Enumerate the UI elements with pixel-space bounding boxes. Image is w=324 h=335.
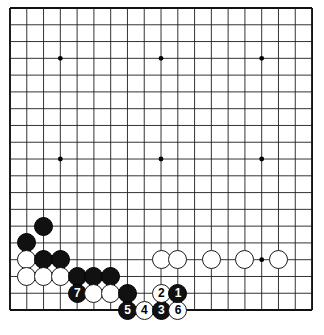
hoshi-point [259, 257, 264, 262]
move-number: 1 [169, 285, 186, 302]
move-number: 5 [119, 302, 136, 319]
numbered-stone-black: 1 [168, 284, 187, 303]
hoshi-point [58, 157, 63, 162]
numbered-stone-white: 4 [135, 301, 154, 320]
stone-white [51, 267, 70, 286]
move-number: 4 [136, 302, 153, 319]
move-number: 6 [169, 302, 186, 319]
hoshi-point [159, 56, 164, 61]
move-number: 2 [153, 285, 170, 302]
hoshi-point [159, 157, 164, 162]
move-number: 7 [69, 285, 86, 302]
stone-white [202, 250, 221, 269]
stone-black [34, 217, 53, 236]
stone-black [118, 284, 137, 303]
numbered-stone-white: 6 [168, 301, 187, 320]
hoshi-point [58, 56, 63, 61]
hoshi-point [259, 157, 264, 162]
go-board-diagram: 7543621 [0, 0, 324, 335]
move-number: 3 [153, 302, 170, 319]
hoshi-point [259, 56, 264, 61]
